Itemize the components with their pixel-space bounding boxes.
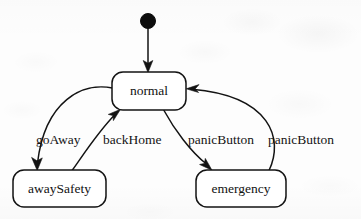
transition-label-backHome: backHome	[103, 132, 161, 147]
transition-label-panicButton-back: panicButton	[268, 132, 334, 147]
state-emergency-label: emergency	[212, 181, 271, 196]
arrowhead-panicButton-back	[186, 85, 199, 93]
state-diagram: normal awaySafety emergency goAway backH…	[0, 0, 361, 219]
state-normal[interactable]: normal	[112, 72, 186, 110]
initial-pseudostate-dot	[141, 14, 156, 29]
state-awaySafety[interactable]: awaySafety	[13, 170, 106, 207]
transition-label-panicButton-out: panicButton	[188, 132, 254, 147]
transition-label-goAway: goAway	[36, 132, 81, 147]
transition-initial-to-normal	[143, 29, 153, 73]
diagram-canvas: normal awaySafety emergency goAway backH…	[0, 0, 361, 219]
edge-panicButton-back	[192, 89, 274, 170]
transition-normal-to-awaySafety	[32, 87, 113, 171]
state-emergency[interactable]: emergency	[196, 170, 286, 207]
state-normal-label: normal	[130, 83, 168, 98]
edge-goAway	[38, 87, 113, 163]
state-awaySafety-label: awaySafety	[28, 181, 91, 196]
arrowhead-goAway	[32, 157, 43, 170]
